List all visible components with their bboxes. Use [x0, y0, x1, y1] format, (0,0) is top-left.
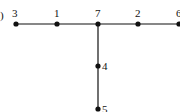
- panel-label: l): [0, 10, 4, 21]
- node-7: [95, 21, 100, 26]
- node-1: [54, 21, 59, 26]
- node-label-6: 6: [176, 8, 180, 19]
- graph-canvas: [0, 0, 180, 112]
- node-5: [95, 106, 100, 111]
- node-label-1: 1: [54, 8, 60, 19]
- nodes-group: [13, 21, 180, 111]
- node-label-5: 5: [102, 104, 108, 112]
- node-label-3: 3: [12, 8, 18, 19]
- node-label-7: 7: [95, 8, 101, 19]
- node-6: [176, 21, 180, 26]
- node-label-4: 4: [102, 61, 108, 72]
- node-label-2: 2: [135, 8, 141, 19]
- node-3: [13, 21, 18, 26]
- node-2: [135, 21, 140, 26]
- node-4: [95, 63, 100, 68]
